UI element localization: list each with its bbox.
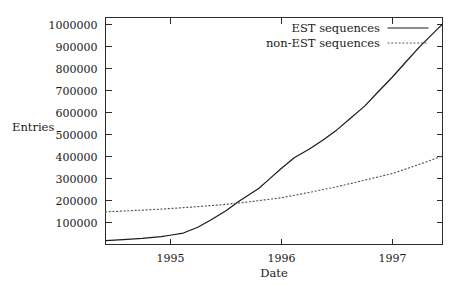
y-tick-label: 900000 xyxy=(56,41,98,54)
y-tick-label: 800000 xyxy=(56,63,98,76)
legend-label: EST sequences xyxy=(292,21,381,35)
x-axis-title: Date xyxy=(260,266,288,280)
legend-label: non-EST sequences xyxy=(266,36,380,50)
y-axis-title: Entries xyxy=(12,120,54,134)
x-tick-label: 1995 xyxy=(157,252,185,265)
line-chart: 1000002000003000004000005000006000007000… xyxy=(0,0,461,285)
chart-legend: EST sequencesnon-EST sequences xyxy=(266,21,428,50)
y-tick-label: 700000 xyxy=(56,85,98,98)
series-line-non-est xyxy=(106,156,443,212)
x-tick-label: 1996 xyxy=(268,252,296,265)
chart-container: 1000002000003000004000005000006000007000… xyxy=(0,0,461,285)
y-tick-label: 500000 xyxy=(56,129,98,142)
y-tick-label: 400000 xyxy=(56,151,98,164)
y-tick-label: 600000 xyxy=(56,107,98,120)
y-axis-tick-labels: 1000002000003000004000005000006000007000… xyxy=(49,19,98,230)
x-tick-label: 1997 xyxy=(379,252,407,265)
y-tick-label: 200000 xyxy=(56,195,98,208)
plot-frame xyxy=(106,18,443,245)
y-axis-ticks xyxy=(106,25,443,223)
series-lines xyxy=(106,24,443,240)
y-tick-label: 100000 xyxy=(56,217,98,230)
y-tick-label: 1000000 xyxy=(49,19,98,32)
y-tick-label: 300000 xyxy=(56,173,98,186)
x-axis-ticks xyxy=(171,18,393,245)
series-line-est xyxy=(106,24,443,240)
x-axis-tick-labels: 199519961997 xyxy=(157,252,407,265)
